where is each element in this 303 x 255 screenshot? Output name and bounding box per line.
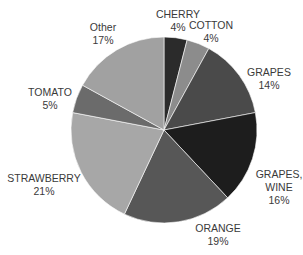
label-orange: ORANGE 19%: [195, 222, 241, 248]
label-orange-pct: 19%: [195, 235, 241, 248]
label-tomato-name: TOMATO: [28, 86, 72, 99]
label-other: Other 17%: [90, 21, 116, 47]
label-grapes-wine-pct: 16%: [256, 194, 303, 207]
label-grapes-pct: 14%: [247, 79, 291, 92]
label-grapes: GRAPES 14%: [247, 66, 291, 92]
label-orange-name: ORANGE: [195, 222, 241, 235]
label-tomato: TOMATO 5%: [28, 86, 72, 112]
label-strawberry: STRAWBERRY 21%: [7, 172, 81, 198]
label-grapes-wine-line1: GRAPES,: [256, 168, 303, 181]
label-other-name: Other: [90, 21, 116, 34]
pie-chart: [0, 0, 303, 255]
label-cotton: COTTON 4%: [189, 19, 233, 45]
label-cotton-name: COTTON: [189, 19, 233, 32]
label-cotton-pct: 4%: [189, 32, 233, 45]
label-grapes-wine-line2: WINE: [256, 181, 303, 194]
label-strawberry-name: STRAWBERRY: [7, 172, 81, 185]
label-grapes-wine: GRAPES, WINE 16%: [256, 168, 303, 207]
label-strawberry-pct: 21%: [7, 185, 81, 198]
label-other-pct: 17%: [90, 34, 116, 47]
label-grapes-name: GRAPES: [247, 66, 291, 79]
label-tomato-pct: 5%: [28, 99, 72, 112]
